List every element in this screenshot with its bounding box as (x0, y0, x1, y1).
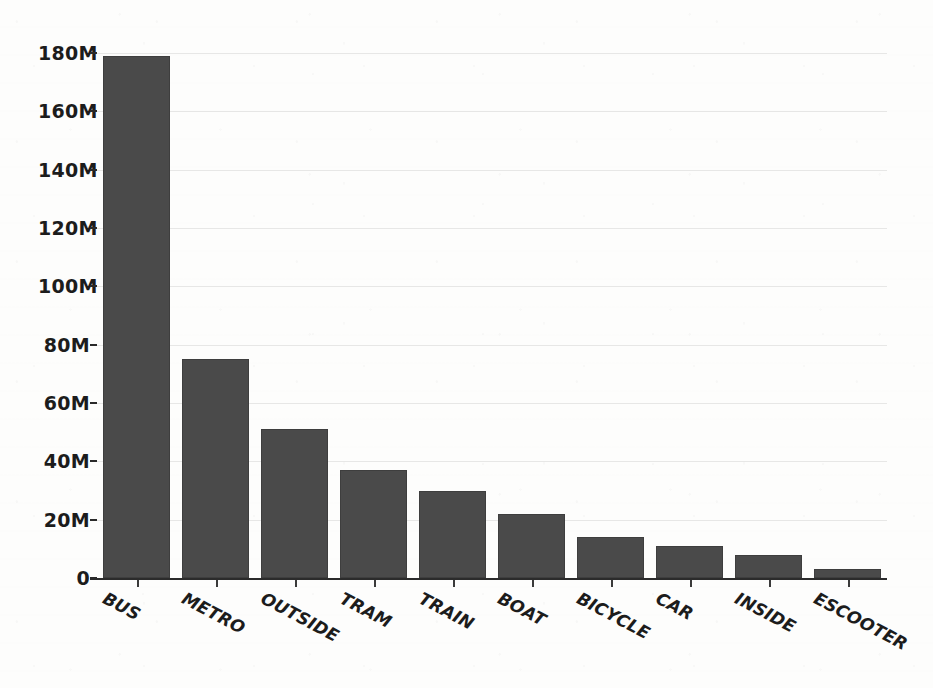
bar[interactable] (182, 359, 249, 578)
bar[interactable] (498, 514, 565, 578)
bar[interactable] (577, 537, 644, 578)
bar[interactable] (419, 491, 486, 579)
bar[interactable] (735, 555, 802, 578)
bar[interactable] (103, 56, 170, 578)
bar[interactable] (656, 546, 723, 578)
bar[interactable] (814, 569, 881, 578)
bar[interactable] (261, 429, 328, 578)
bar-chart-figure: 020M40M60M80M100M120M140M160M180M BUSMET… (0, 0, 933, 688)
bars-group (0, 0, 933, 688)
bar[interactable] (340, 470, 407, 578)
plot-area: 020M40M60M80M100M120M140M160M180M BUSMET… (0, 0, 933, 688)
